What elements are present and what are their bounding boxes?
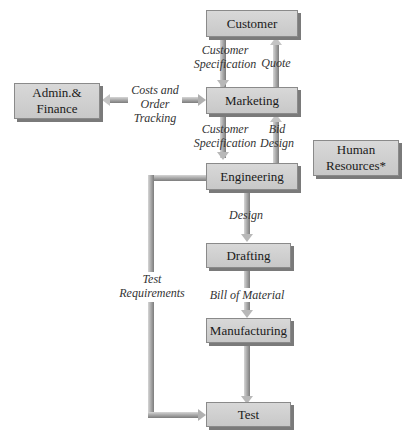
- arrow-right-icon: [198, 409, 206, 421]
- arrow-up-icon: [270, 37, 282, 45]
- arrow-down-icon: [217, 152, 229, 160]
- node-admin-label-1: Admin.&: [32, 85, 81, 101]
- node-customer-label: Customer: [227, 16, 278, 32]
- label-bid-design: Bid Design: [259, 122, 295, 150]
- node-test-label: Test: [238, 407, 259, 423]
- label-costs-order-tracking: Costs and Order Tracking: [122, 83, 188, 125]
- node-human-resources: Human Resources*: [313, 140, 399, 176]
- node-drafting-label: Drafting: [226, 248, 270, 264]
- node-admin-label-2: Finance: [36, 101, 77, 117]
- node-marketing-label: Marketing: [225, 93, 279, 109]
- label-customer-specification-1: Customer Specification: [190, 43, 260, 71]
- arrow-up-icon: [270, 114, 282, 122]
- node-customer: Customer: [206, 10, 298, 37]
- label-test-requirements: Test Requirements: [116, 272, 188, 300]
- arrow-right-icon: [198, 94, 206, 106]
- label-design: Design: [226, 208, 266, 222]
- node-manufacturing-label: Manufacturing: [210, 323, 287, 339]
- node-test: Test: [206, 402, 291, 427]
- connector-engineering-to-test-bottom: [148, 412, 200, 418]
- node-engineering-label: Engineering: [220, 169, 284, 185]
- arrow-left-icon: [102, 94, 110, 106]
- node-marketing: Marketing: [206, 87, 298, 114]
- node-engineering: Engineering: [206, 163, 298, 190]
- arrow-down-icon: [241, 234, 253, 242]
- node-manufacturing: Manufacturing: [206, 318, 291, 343]
- connector-engineering-to-test-vertical-2: [148, 302, 154, 418]
- node-drafting: Drafting: [206, 243, 291, 268]
- connector-manufacturing-to-test: [244, 343, 250, 399]
- arrow-down-icon: [241, 310, 253, 318]
- node-admin-finance: Admin.& Finance: [14, 83, 100, 119]
- node-hr-label-1: Human: [337, 142, 375, 158]
- label-bill-of-material: Bill of Material: [204, 288, 290, 302]
- connector-engineering-to-test-top: [148, 175, 206, 181]
- label-quote: Quote: [256, 56, 296, 70]
- label-customer-specification-2: Customer Specification: [190, 122, 260, 150]
- node-hr-label-2: Resources*: [326, 158, 386, 174]
